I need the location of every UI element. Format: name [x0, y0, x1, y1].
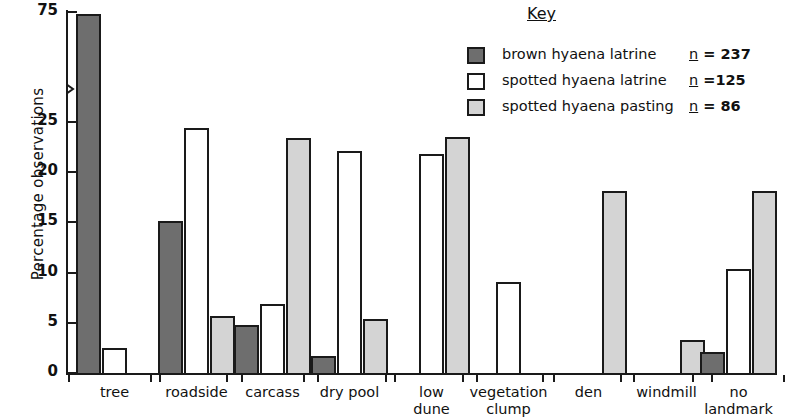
legend-sample-size: n = 237	[689, 46, 751, 62]
x-tick	[303, 375, 305, 382]
legend-sample-size: n = 86	[689, 98, 741, 114]
legend-item: brown hyaena latrinen = 237	[464, 45, 761, 71]
legend-title: Key	[527, 4, 556, 23]
bar	[419, 154, 444, 375]
bar-group	[311, 0, 388, 375]
x-tick	[150, 375, 152, 382]
x-tick	[241, 375, 243, 382]
x-axis-label: nolandmark	[679, 384, 789, 418]
bar-group	[234, 0, 311, 375]
bar-group	[76, 0, 153, 375]
bar	[76, 14, 101, 375]
legend-n-symbol: n	[689, 98, 698, 114]
legend-label: spotted hyaena pasting	[502, 98, 674, 114]
x-tick	[317, 375, 319, 382]
x-tick	[476, 375, 478, 382]
x-axis-label-line: landmark	[679, 401, 789, 418]
x-tick	[68, 375, 70, 382]
bar-group	[158, 0, 235, 375]
bar	[752, 191, 777, 375]
bar	[445, 137, 470, 375]
x-tick	[692, 375, 694, 382]
x-axis-label-line: clump	[449, 401, 569, 418]
bar	[184, 128, 209, 375]
bar	[363, 319, 388, 375]
bar	[496, 282, 521, 375]
bar	[158, 221, 183, 375]
x-tick	[711, 375, 713, 382]
bar	[726, 269, 751, 375]
legend-swatch-brown	[467, 47, 485, 64]
x-tick	[783, 375, 785, 382]
bar	[234, 325, 259, 375]
x-tick	[226, 375, 228, 382]
x-axis-label-line: no	[679, 384, 789, 401]
legend-label: spotted hyaena latrine	[502, 72, 667, 88]
legend-item: spotted hyaena pastingn = 86	[464, 97, 761, 123]
legend-swatch-pasting	[467, 99, 485, 116]
legend-label: brown hyaena latrine	[502, 46, 656, 62]
x-tick	[620, 375, 622, 382]
bar	[286, 138, 311, 375]
x-tick	[159, 375, 161, 382]
x-tick	[633, 375, 635, 382]
legend-sample-size: n =125	[689, 72, 746, 88]
legend-swatch-white	[467, 73, 485, 90]
bar	[102, 348, 127, 375]
bar	[311, 356, 336, 375]
x-tick	[462, 375, 464, 382]
bar	[260, 304, 285, 375]
bar	[700, 352, 725, 375]
bar	[602, 191, 627, 375]
x-tick	[385, 375, 387, 382]
bar	[337, 151, 362, 375]
bar-group	[393, 0, 470, 375]
x-tick	[542, 375, 544, 382]
legend-n-symbol: n	[689, 46, 698, 62]
x-tick	[394, 375, 396, 382]
legend-n-symbol: n	[689, 72, 698, 88]
bar	[210, 316, 235, 375]
legend-item: spotted hyaena latrinen =125	[464, 71, 761, 97]
x-tick	[553, 375, 555, 382]
